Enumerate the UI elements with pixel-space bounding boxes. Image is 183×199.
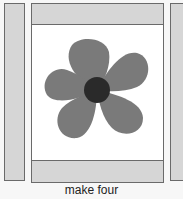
flower-applique — [0, 0, 183, 199]
caption: make four — [0, 183, 183, 197]
flower-center — [84, 77, 110, 103]
